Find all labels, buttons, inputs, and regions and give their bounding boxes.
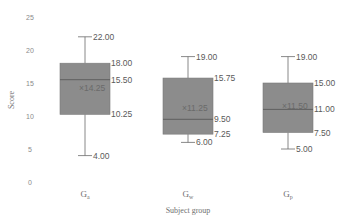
y-axis-label: Score [7, 90, 16, 109]
y-tick-label: 0 [28, 179, 32, 186]
q3-label: 15.75 [214, 73, 236, 83]
mean-label: ×11.50 [282, 101, 308, 111]
box-gp: 19.0015.0011.007.505.00×11.50 [263, 52, 336, 154]
mean-label: ×11.25 [182, 103, 208, 113]
x-category-label: Gw [183, 189, 195, 200]
max-label: 19.00 [196, 52, 218, 62]
x-axis-label: Subject group [166, 206, 211, 215]
box-gw: 19.0015.759.507.256.00×11.25 [163, 52, 236, 148]
y-tick-label: 10 [26, 113, 34, 120]
box-plot-chart: 0510152025 22.0018.0015.5010.254.00×14.2… [0, 0, 343, 224]
max-label: 22.00 [93, 32, 115, 42]
min-label: 6.00 [196, 137, 213, 147]
q1-label: 7.25 [214, 129, 231, 139]
y-axis: 0510152025 [26, 14, 34, 186]
q3-label: 15.00 [314, 78, 336, 88]
median-label: 15.50 [111, 75, 133, 85]
x-category-label: Gp [283, 189, 293, 200]
x-axis: GaGwGp [80, 189, 292, 200]
q1-label: 10.25 [111, 109, 133, 119]
y-tick-label: 5 [28, 146, 32, 153]
box-ga: 22.0018.0015.5010.254.00×14.25 [60, 32, 133, 161]
median-label: 9.50 [214, 114, 231, 124]
min-label: 5.00 [296, 144, 313, 154]
y-tick-label: 25 [26, 14, 34, 21]
max-label: 19.00 [296, 52, 318, 62]
y-tick-label: 15 [26, 80, 34, 87]
q3-label: 18.00 [111, 58, 133, 68]
y-tick-label: 20 [26, 47, 34, 54]
min-label: 4.00 [93, 151, 110, 161]
box-series: 22.0018.0015.5010.254.00×14.2519.0015.75… [60, 32, 336, 161]
q1-label: 7.50 [314, 128, 331, 138]
median-label: 11.00 [314, 104, 335, 114]
mean-label: ×14.25 [79, 83, 106, 93]
x-category-label: Ga [80, 189, 90, 200]
